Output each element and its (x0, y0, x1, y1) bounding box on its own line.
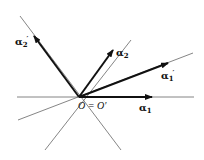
label-alpha1-prime: α1′ (161, 68, 175, 83)
vector-alpha2-prime (34, 36, 79, 97)
label-alpha2: α2 (116, 47, 129, 60)
label-alpha1: α1 (139, 102, 152, 115)
root-system-diagram: α1 α2 α1′ α2′ O = O′ (0, 0, 204, 160)
label-alpha2-prime: α2′ (15, 34, 29, 49)
origin-label: O = O′ (78, 100, 107, 111)
